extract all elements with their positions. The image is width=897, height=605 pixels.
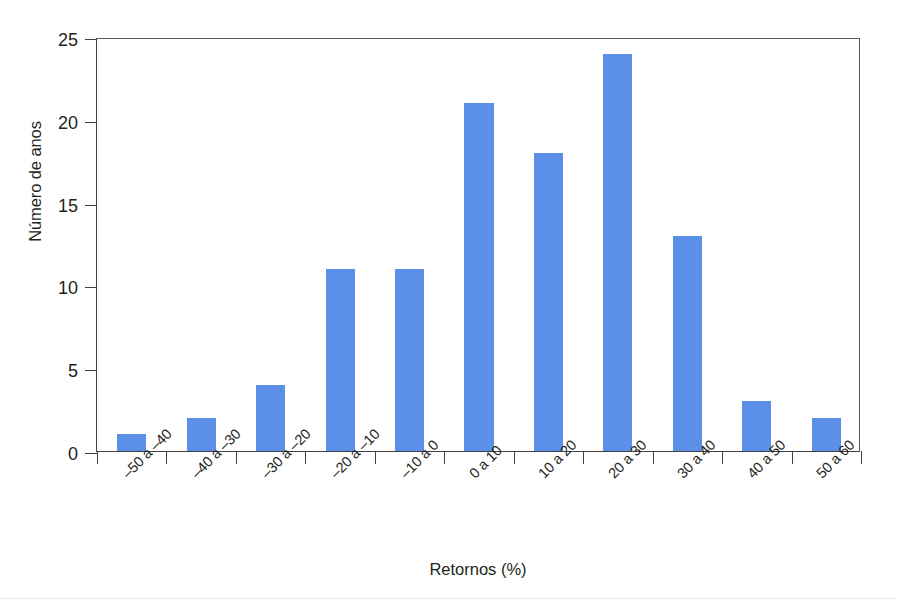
y-tick-mark: 0: [85, 453, 97, 454]
x-tick-mark: [792, 451, 793, 464]
y-tick-mark: 20: [85, 122, 97, 123]
y-tick-mark: 5: [85, 370, 97, 371]
y-tick-label: 15: [58, 197, 78, 215]
y-axis-title: Número de anos: [26, 102, 45, 262]
x-tick-mark: [653, 451, 654, 464]
y-tick-label: 5: [68, 362, 78, 380]
x-tick-mark: [514, 451, 515, 464]
x-tick-mark: [722, 451, 723, 464]
x-tick-mark: [375, 451, 376, 464]
bar[interactable]: [256, 385, 285, 451]
bar[interactable]: [464, 103, 493, 451]
bar[interactable]: [326, 269, 355, 451]
bar[interactable]: [603, 54, 632, 451]
bar[interactable]: [534, 153, 563, 451]
x-tick-mark: [305, 451, 306, 464]
y-tick-label: 20: [58, 114, 78, 132]
y-tick-mark: 10: [85, 287, 97, 288]
scan-artifact-line: [0, 598, 897, 599]
x-tick-mark: [236, 451, 237, 464]
bar[interactable]: [395, 269, 424, 451]
x-tick-mark: [861, 451, 862, 464]
bar-chart: Número de anos 0510152025 –50 a –40–40 a…: [0, 0, 897, 605]
plot-area: 0510152025: [96, 38, 860, 452]
x-axis-title: Retornos (%): [96, 560, 860, 579]
y-tick-mark: 15: [85, 205, 97, 206]
x-tick-mark: [444, 451, 445, 464]
y-tick-mark: 25: [85, 39, 97, 40]
x-tick-mark: [583, 451, 584, 464]
x-tick-mark: [97, 451, 98, 464]
y-tick-label: 25: [58, 31, 78, 49]
x-tick-mark: [166, 451, 167, 464]
y-tick-label: 10: [58, 279, 78, 297]
y-tick-label: 0: [68, 445, 78, 463]
bar[interactable]: [742, 401, 771, 451]
bar[interactable]: [673, 236, 702, 451]
